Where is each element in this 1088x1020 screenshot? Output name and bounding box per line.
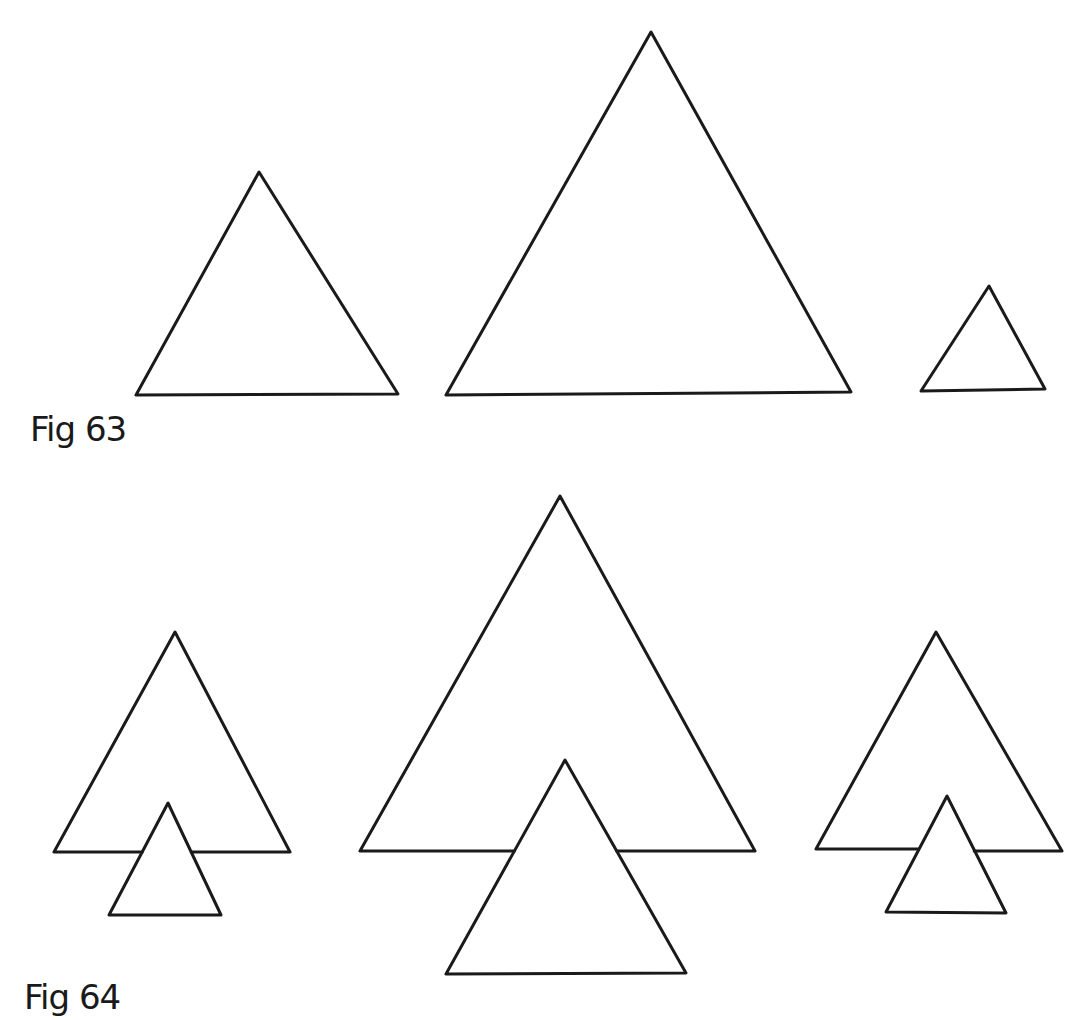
fig-63-label: Fig 63 (30, 412, 126, 446)
outer-triangle (54, 632, 290, 852)
triangle-large (446, 32, 851, 395)
outer-triangle (360, 496, 755, 851)
inner-triangle (109, 803, 221, 915)
fig-64-label: Fig 64 (24, 980, 120, 1014)
outer-triangle (816, 632, 1062, 851)
group-center (360, 496, 755, 974)
inner-triangle (446, 760, 686, 974)
fig-63-triangles (136, 32, 1045, 395)
inner-triangle (886, 796, 1006, 913)
fig-64-triangle-pairs (54, 496, 1062, 974)
group-right (816, 632, 1062, 913)
triangle-small (921, 286, 1045, 391)
triangle-medium (136, 172, 398, 395)
group-left (54, 632, 290, 915)
figure-canvas (0, 0, 1088, 1020)
